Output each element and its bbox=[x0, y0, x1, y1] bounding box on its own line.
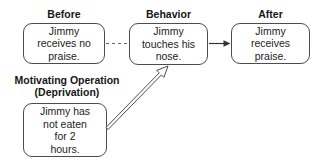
after-label: After bbox=[231, 8, 310, 20]
behavior-label: Behavior bbox=[129, 8, 208, 20]
behavior-box: Jimmy touches his nose. bbox=[129, 23, 208, 65]
motivating-operation-box: Jimmy has not eaten for 2 hours. bbox=[23, 103, 107, 157]
before-box: Jimmy receives no praise. bbox=[23, 23, 105, 64]
after-box: Jimmy receives praise. bbox=[231, 23, 310, 64]
motivating-operation-label: Motivating Operation (Deprivation) bbox=[0, 74, 134, 98]
arrowhead-behavior-after bbox=[224, 40, 231, 46]
before-label: Before bbox=[23, 8, 105, 20]
contingency-diagram: Before Behavior After Motivating Operati… bbox=[0, 0, 328, 163]
